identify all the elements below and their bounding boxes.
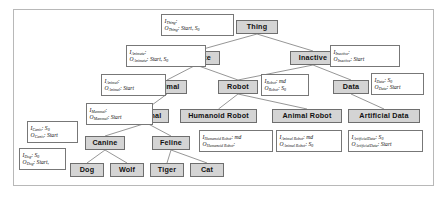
ann-robot: IRobot: mdORobot: S0 bbox=[261, 74, 309, 96]
ann-artificial-data: IArtificialData: S0OArtificialData: Star… bbox=[348, 130, 423, 152]
node-feline[interactable]: Feline bbox=[152, 136, 190, 150]
annotation-output-row: OAnimal Robot: S0 bbox=[280, 141, 339, 148]
annotation-output-value-subscript: 0 bbox=[197, 28, 199, 32]
annotation-output-row: OHumanoid Robot: bbox=[203, 141, 270, 148]
annotation-output-value: Start, bbox=[37, 159, 49, 165]
annotation-input-value-subscript: 0 bbox=[37, 155, 39, 159]
node-label: Cat bbox=[201, 166, 213, 173]
annotation-output-subscript: Animal Robot bbox=[284, 144, 306, 148]
annotation-output-value: Start bbox=[123, 85, 134, 91]
annotation-input-subscript: Humanoid Robot bbox=[204, 137, 231, 141]
annotation-input-value: md bbox=[234, 134, 241, 140]
annotation-output-value: Start bbox=[381, 141, 392, 147]
node-dog[interactable]: Dog bbox=[70, 163, 104, 177]
annotation-output-row: ORobot: S0 bbox=[265, 85, 306, 92]
node-label: Animal Robot bbox=[282, 112, 331, 119]
annotation-output-value: Start bbox=[47, 132, 58, 138]
annotation-output-subscript: Animal bbox=[109, 88, 120, 92]
annotation-output-subscript: Thing bbox=[169, 28, 178, 32]
node-label: Humanoid Robot bbox=[188, 112, 249, 119]
annotation-input-row: IInactive: bbox=[334, 49, 397, 56]
annotation-output-subscript: Humanoid Robot bbox=[207, 144, 234, 148]
annotation-output-row: OAnimal: Start bbox=[105, 85, 163, 92]
ann-mammal: IMammal: OMammal: Start bbox=[86, 103, 153, 125]
annotation-input-subscript: ArtificialData bbox=[353, 137, 375, 141]
annotation-output-subscript: Dog bbox=[27, 162, 34, 166]
annotation-input-value: md bbox=[306, 134, 313, 140]
annotation-output-value: Start bbox=[353, 56, 364, 62]
node-label: Feline bbox=[160, 139, 182, 146]
node-cat[interactable]: Cat bbox=[190, 163, 224, 177]
node-animal-robot[interactable]: Animal Robot bbox=[272, 109, 342, 123]
ann-canine: ICanis: S0OCanis: Start bbox=[27, 121, 78, 143]
ann-thing: IThing: OThing: Start, S0 bbox=[161, 14, 234, 36]
annotation-input-row: ICanis: S0 bbox=[31, 125, 75, 132]
annotation-output-subscript: Data bbox=[379, 87, 387, 91]
node-label: Inactive bbox=[299, 54, 327, 61]
diagram-canvas: ThingAnimateInactiveAnimalRobotDataMamma… bbox=[0, 0, 447, 197]
annotation-input-row: IAnimate: bbox=[130, 49, 203, 56]
annotation-input-subscript: Animal Robot bbox=[281, 137, 303, 141]
ann-animal-robot: IAnimal Robot: mdOAnimal Robot: S0 bbox=[276, 130, 342, 152]
node-label: Thing bbox=[247, 23, 268, 30]
node-canine[interactable]: Canine bbox=[85, 136, 125, 150]
annotation-input-subscript: Data bbox=[376, 80, 384, 84]
ann-animate: IAnimate: OAnimate: Start, S0 bbox=[126, 45, 206, 67]
annotation-input-row: IDog: S0 bbox=[23, 152, 63, 159]
annotation-input-subscript: Animal bbox=[106, 81, 117, 85]
annotation-input-row: IAnimal Robot: md bbox=[280, 134, 339, 141]
node-label: Robot bbox=[227, 83, 249, 90]
node-artificial-data[interactable]: Artificial Data bbox=[348, 109, 420, 123]
annotation-output-row: OInactive: Start bbox=[334, 56, 397, 63]
annotation-input-row: IHumanoid Robot: md bbox=[203, 134, 270, 141]
annotation-output-subscript: Animate bbox=[134, 59, 147, 63]
ann-data: IData: S0OData: Start bbox=[371, 73, 424, 95]
annotation-input-subscript: Robot bbox=[266, 81, 275, 85]
annotation-output-value-subscript: 0 bbox=[284, 88, 286, 92]
annotation-output-subscript: Inactive bbox=[338, 59, 351, 63]
annotation-input-subscript: Thing bbox=[166, 21, 175, 25]
annotation-output-row: OMammal: Start bbox=[90, 114, 150, 121]
annotation-output-row: OArtificialData: Start bbox=[352, 141, 420, 148]
ann-dog: IDog: S0ODog: Start, bbox=[19, 148, 66, 170]
annotation-output-value: Start, S bbox=[150, 56, 166, 62]
annotation-input-row: IData: S0 bbox=[375, 77, 421, 84]
node-label: Data bbox=[343, 83, 359, 90]
annotation-input-value-subscript: 0 bbox=[390, 80, 392, 84]
annotation-output-value-subscript: 0 bbox=[166, 59, 168, 63]
annotation-output-subscript: Mammal bbox=[94, 117, 108, 121]
node-tiger[interactable]: Tiger bbox=[150, 163, 184, 177]
node-wolf[interactable]: Wolf bbox=[110, 163, 144, 177]
annotation-input-subscript: Inactive bbox=[335, 52, 348, 56]
node-data[interactable]: Data bbox=[333, 80, 369, 94]
node-label: Tiger bbox=[158, 166, 176, 173]
annotation-output-row: OAnimate: Start, S0 bbox=[130, 56, 203, 63]
annotation-output-subscript: ArtificialData bbox=[356, 144, 378, 148]
annotation-output-value: Start bbox=[390, 84, 401, 90]
annotation-output-subscript: Robot bbox=[269, 88, 278, 92]
annotation-input-subscript: Mammal bbox=[91, 110, 105, 114]
annotation-output-value: Start, S bbox=[181, 25, 197, 31]
node-thing[interactable]: Thing bbox=[236, 20, 278, 34]
node-robot[interactable]: Robot bbox=[218, 80, 258, 94]
annotation-input-subscript: Dog bbox=[24, 155, 31, 159]
ann-humanoid-robot: IHumanoid Robot: mdOHumanoid Robot: bbox=[199, 130, 273, 152]
node-label: Artificial Data bbox=[359, 112, 408, 119]
annotation-input-subscript: Canis bbox=[32, 128, 41, 132]
annotation-output-row: OCanis: Start bbox=[31, 132, 75, 139]
node-label: Dog bbox=[80, 166, 95, 173]
annotation-output-value: Start bbox=[111, 114, 122, 120]
annotation-input-row: IThing: bbox=[165, 18, 231, 25]
annotation-input-row: IMammal: bbox=[90, 107, 150, 114]
node-humanoid-robot[interactable]: Humanoid Robot bbox=[180, 109, 257, 123]
node-label: Wolf bbox=[119, 166, 135, 173]
annotation-input-row: IAnimal: bbox=[105, 78, 163, 85]
annotation-input-value-subscript: 0 bbox=[48, 128, 50, 132]
annotation-output-row: ODog: Start, bbox=[23, 159, 63, 166]
ann-animal: IAnimal: OAnimal: Start bbox=[101, 74, 166, 96]
annotation-output-row: OData: Start bbox=[375, 84, 421, 91]
ann-inactive: IInactive: OInactive: Start bbox=[330, 45, 400, 67]
annotation-input-row: IArtificialData: S0 bbox=[352, 134, 420, 141]
annotation-input-subscript: Animate bbox=[131, 52, 144, 56]
annotation-output-value-subscript: 0 bbox=[311, 144, 313, 148]
